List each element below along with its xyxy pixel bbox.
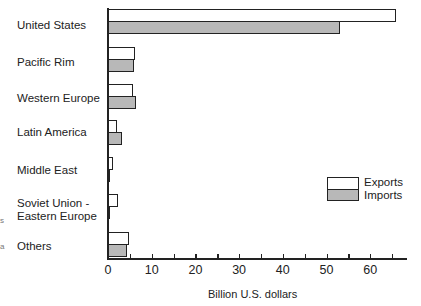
imports-bar (108, 59, 134, 72)
margin-mark: s (0, 216, 4, 225)
imports-bar (108, 244, 127, 257)
imports-swatch (328, 190, 358, 200)
category-label: Eastern Europe (17, 210, 97, 223)
x-tick (392, 254, 393, 258)
x-tick (217, 254, 218, 258)
x-tick (239, 254, 240, 258)
x-tick (327, 254, 328, 258)
category-label: United States (17, 19, 86, 32)
x-tick (261, 254, 262, 258)
imports-bar (108, 132, 122, 145)
category-label: Others (17, 240, 52, 253)
legend-swatch (327, 177, 359, 201)
x-axis-line (107, 258, 407, 260)
exports-swatch (328, 178, 358, 190)
x-tick-label: 40 (276, 263, 290, 277)
x-tick-label: 20 (188, 263, 202, 277)
category-label: Latin America (17, 126, 87, 139)
category-label: Western Europe (17, 92, 100, 105)
x-tick (305, 254, 306, 258)
x-tick (174, 254, 175, 258)
x-tick (130, 254, 131, 258)
imports-bar (108, 169, 110, 182)
x-tick (283, 254, 284, 258)
x-tick-label: 50 (320, 263, 334, 277)
x-tick-label: 30 (232, 263, 246, 277)
margin-mark: a (0, 242, 4, 251)
x-tick-label: 60 (363, 263, 377, 277)
category-label: Middle East (17, 164, 77, 177)
x-tick (152, 254, 153, 258)
imports-bar (108, 96, 136, 109)
legend-imports-label: Imports (364, 189, 402, 201)
x-tick (370, 254, 371, 258)
imports-bar (108, 21, 340, 34)
x-tick-label: 10 (145, 263, 159, 277)
imports-bar (108, 206, 110, 219)
x-axis-label: Billion U.S. dollars (208, 288, 297, 300)
x-tick (195, 254, 196, 258)
x-tick-label: 0 (105, 263, 112, 277)
category-label: Soviet Union - (17, 197, 89, 210)
legend-exports-label: Exports (364, 176, 403, 188)
category-label: Pacific Rim (17, 56, 75, 69)
x-tick (348, 254, 349, 258)
